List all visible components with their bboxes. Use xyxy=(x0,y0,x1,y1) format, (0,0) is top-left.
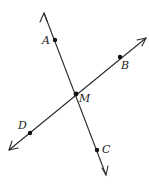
point-a xyxy=(53,38,57,42)
label-c: C xyxy=(102,143,111,156)
arrowhead-top-line-ac xyxy=(40,13,47,22)
point-d xyxy=(28,131,32,135)
label-a: A xyxy=(41,34,50,47)
label-d: D xyxy=(17,119,27,132)
label-m: M xyxy=(78,92,91,105)
intersecting-lines-diagram: A B M D C xyxy=(0,0,149,186)
point-c xyxy=(95,148,99,152)
point-m xyxy=(74,92,79,97)
label-b: B xyxy=(120,59,129,72)
